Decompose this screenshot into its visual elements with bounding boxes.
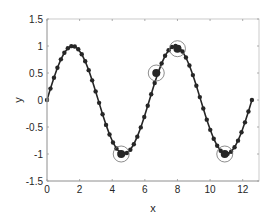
data-point-marker <box>163 54 167 58</box>
highlight-dot <box>152 69 160 77</box>
data-point-marker <box>232 145 236 149</box>
highlight-dot <box>221 150 229 158</box>
x-tick-label: 4 <box>109 184 115 195</box>
data-point-marker <box>184 55 188 59</box>
data-point-marker <box>48 86 52 90</box>
data-point-marker <box>76 47 80 51</box>
data-point-marker <box>55 66 59 70</box>
data-point-marker <box>198 95 202 99</box>
highlight-dot <box>173 45 181 53</box>
data-point-marker <box>194 84 198 88</box>
data-point-marker <box>208 128 212 132</box>
data-point-marker <box>93 89 97 93</box>
data-point-marker <box>100 112 104 116</box>
data-point-marker <box>59 57 63 61</box>
data-point-marker <box>142 115 146 119</box>
data-point-marker <box>139 125 143 129</box>
data-point-marker <box>149 92 153 96</box>
data-point-marker <box>111 140 115 144</box>
data-point-marker <box>205 117 209 121</box>
y-tick-label: 1 <box>37 41 43 52</box>
data-point-marker <box>135 134 139 138</box>
data-point-marker <box>132 142 136 146</box>
highlight-dot <box>117 150 125 158</box>
x-tick-label: 12 <box>237 184 249 195</box>
data-point-marker <box>104 123 108 127</box>
data-point-marker <box>246 109 250 113</box>
x-axis-label: x <box>150 202 156 214</box>
x-tick-label: 0 <box>44 184 50 195</box>
data-point-marker <box>62 51 66 55</box>
data-point-marker <box>236 138 240 142</box>
data-point-marker <box>201 106 205 110</box>
data-point-marker <box>73 44 77 48</box>
axes: 024681012-1.5-1-0.500.511.5 <box>26 14 259 196</box>
data-point-marker <box>52 75 56 79</box>
series-line <box>47 46 252 154</box>
y-axis-label: y <box>12 97 24 103</box>
chart: 024681012-1.5-1-0.500.511.5 x y <box>0 0 272 220</box>
data-point-marker <box>152 81 156 85</box>
y-tick-label: -0.5 <box>26 122 44 133</box>
data-point-marker <box>146 104 150 108</box>
x-tick-label: 10 <box>205 184 217 195</box>
y-tick-label: -1.5 <box>26 176 44 187</box>
data-point-marker <box>250 98 254 102</box>
data-point-marker <box>159 61 163 65</box>
x-tick-label: 6 <box>142 184 148 195</box>
data-point-marker <box>97 101 101 105</box>
data-point-marker <box>90 78 94 82</box>
data-point-marker <box>80 52 84 56</box>
data-point-marker <box>83 59 87 63</box>
x-tick-label: 2 <box>77 184 83 195</box>
x-tick-label: 8 <box>175 184 181 195</box>
y-tick-label: -1 <box>34 149 43 160</box>
y-tick-label: 0.5 <box>29 68 43 79</box>
data-point-marker <box>243 120 247 124</box>
data-point-marker <box>212 136 216 140</box>
y-tick-label: 0 <box>37 95 43 106</box>
y-tick-label: 1.5 <box>29 14 43 25</box>
data-point-marker <box>86 68 90 72</box>
data-point-marker <box>191 73 195 77</box>
data-point-marker <box>187 63 191 67</box>
data-point-marker <box>107 132 111 136</box>
data-point-marker <box>215 144 219 148</box>
plot-area <box>45 41 254 162</box>
data-point-marker <box>239 130 243 134</box>
